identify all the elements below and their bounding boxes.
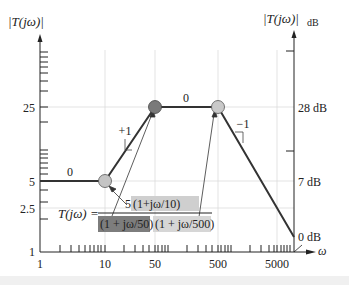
x-tick-10: 10 <box>99 257 111 271</box>
formula-numerator-factor: (1+jω/10) <box>133 197 180 211</box>
formula-denominator-1: (1 + jω/50) <box>100 217 153 231</box>
right-axis-title-sub: dB <box>307 17 319 28</box>
breakpoint-10 <box>99 175 112 188</box>
x-axis-diagonal-mark <box>294 245 302 252</box>
x-axis <box>40 245 310 252</box>
left-axis-arrow-icon <box>38 34 43 42</box>
formula-numerator-gain: 5 <box>125 197 131 211</box>
right-axis-title: |T(jω)| <box>263 11 299 26</box>
x-axis-arrow-icon <box>306 250 316 255</box>
x-axis-title: ω <box>318 244 326 258</box>
x-tick-50: 50 <box>149 257 161 271</box>
right-y-axis <box>286 38 294 252</box>
slope-label-rise: +1 <box>119 124 132 138</box>
y-right-tick-28db: 28 dB <box>298 101 327 115</box>
formula-denominator-2: (1 + jω/500) <box>155 217 214 231</box>
breakpoint-50 <box>149 101 162 114</box>
x-tick-1: 1 <box>37 257 43 271</box>
y-tick-25: 25 <box>23 101 35 115</box>
formula-lhs: T(jω) = <box>58 206 99 221</box>
slope-label-flat-low: 0 <box>67 165 73 179</box>
y-right-tick-0db: 0 dB <box>298 230 321 244</box>
x-tick-5000: 5000 <box>265 257 289 271</box>
left-y-axis <box>40 38 48 252</box>
bottom-border <box>0 276 349 285</box>
bode-plot: |T(jω)| |T(jω)| dB ω 25 5 2.5 1 28 dB 7 … <box>0 0 349 285</box>
right-axis-arrow-icon <box>292 30 297 38</box>
breakpoint-500 <box>212 101 225 114</box>
y-tick-1: 1 <box>29 245 35 259</box>
slope-label-flat-mid: 0 <box>183 91 189 105</box>
slope-label-fall: −1 <box>237 117 250 131</box>
x-tick-500: 500 <box>209 257 227 271</box>
left-axis-title: |T(jω)| <box>8 14 44 29</box>
y-tick-2-5: 2.5 <box>20 202 35 216</box>
y-right-tick-7db: 7 dB <box>298 175 321 189</box>
y-tick-5: 5 <box>29 175 35 189</box>
